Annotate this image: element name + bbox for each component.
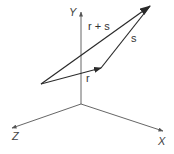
vector-r [41,68,101,84]
vector-r-plus-s-label: r + s [88,20,110,32]
z-axis [12,104,81,128]
vector-s-label: s [131,32,137,44]
x-axis-label: X [157,135,166,147]
vector-r-label: r [86,72,90,84]
vector-r-plus-s [41,6,150,84]
vector-diagram: Y Z X r + s s r [0,0,174,154]
vector-s [101,6,150,68]
y-axis-label: Y [69,6,77,18]
x-axis [81,104,163,131]
z-axis-label: Z [11,130,20,142]
vectors: r + s s r [41,6,150,84]
